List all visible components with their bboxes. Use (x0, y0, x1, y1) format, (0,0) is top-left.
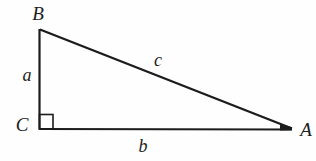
vertex-a-wedge (280, 124, 292, 131)
side-hypotenuse-line (40, 30, 292, 129)
side-label-b: b (139, 136, 148, 156)
vertex-label-c: C (16, 114, 29, 135)
side-base-line (39, 129, 292, 130)
vertex-label-b: B (32, 3, 44, 24)
right-angle-marker (40, 115, 54, 130)
right-triangle-figure: B C A a b c (0, 0, 316, 161)
side-label-a: a (23, 65, 32, 85)
triangle-canvas: B C A a b c (0, 0, 316, 161)
vertex-label-a: A (298, 119, 312, 140)
side-label-c: c (154, 50, 162, 70)
